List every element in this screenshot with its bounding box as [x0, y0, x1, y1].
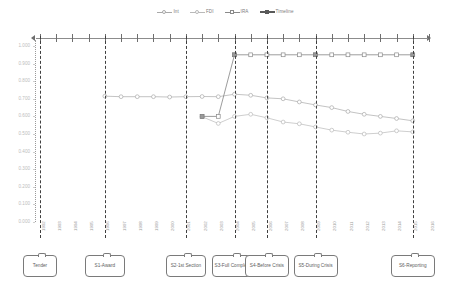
stage-separator-2004	[235, 36, 236, 238]
stage-callout-3[interactable]: S2-1st Section	[166, 255, 206, 277]
plot-area	[36, 38, 428, 222]
stage-callout-label: S2-1st Section	[171, 263, 202, 269]
timeline-tick	[332, 34, 333, 42]
x-axis-tick-label: 2007	[285, 221, 289, 231]
legend-marker-circle-icon	[190, 9, 205, 16]
callout-pointer-icon	[233, 253, 241, 257]
y-axis-tick-label: 0.600	[4, 112, 30, 120]
legend-marker-square-icon	[225, 9, 240, 16]
x-axis-tick-label: 2002	[204, 221, 208, 231]
timeline-tick	[251, 34, 252, 42]
timeline-tick	[137, 34, 138, 42]
x-axis-tick-label: 2005	[252, 221, 256, 231]
x-axis-tick-label: 2016	[431, 221, 435, 231]
stage-callout-1[interactable]: Tender	[23, 255, 57, 277]
x-axis-tick-label: 2015	[414, 221, 418, 231]
timeline-tick	[170, 34, 171, 42]
stage-callout-label: S4-Before Crisis	[250, 263, 284, 269]
chart-figure: IntFDIIRATimeline 1.0000.9000.8000.7000.…	[0, 0, 451, 285]
x-axis-tick-label: 2012	[366, 221, 370, 231]
callout-pointer-icon	[103, 253, 111, 257]
y-axis-tick-label: 0.300	[4, 165, 30, 173]
stage-callout-label: S5-During Crisis	[298, 263, 332, 269]
timeline-tick	[202, 34, 203, 42]
timeline-tick	[56, 34, 57, 42]
x-axis-tick-label: 2009	[317, 221, 321, 231]
stage-callout-label: S1-Award	[95, 263, 116, 269]
x-axis-tick-label: 2001	[187, 221, 191, 231]
y-axis-tick-label: 0.400	[4, 148, 30, 156]
legend-marker-circle-icon	[157, 9, 172, 16]
stage-callout-2[interactable]: S1-Award	[85, 255, 125, 277]
stage-callout-label: S6-Reporting	[399, 263, 427, 269]
x-axis-tick-label: 2010	[333, 221, 337, 231]
x-axis-tick-label: 2013	[382, 221, 386, 231]
y-axis-tick-label: 0.900	[4, 60, 30, 68]
x-axis-tick-label: 2008	[301, 221, 305, 231]
callout-pointer-icon	[265, 253, 273, 257]
x-axis-tick-label: 1998	[139, 221, 143, 231]
x-axis-tick-label: 1999	[155, 221, 159, 231]
stage-callout-label: Tender	[33, 263, 47, 269]
timeline-tick	[299, 34, 300, 42]
timeline-tick	[429, 34, 430, 42]
legend-item-ira[interactable]: IRA	[225, 9, 249, 16]
y-axis-tick-label: 0.500	[4, 130, 30, 138]
x-axis-tick-label: 1997	[123, 221, 127, 231]
timeline-tick	[380, 34, 381, 42]
timeline-tick	[218, 34, 219, 42]
x-axis-tick-label: 2004	[236, 221, 240, 231]
x-axis-tick-label: 1994	[74, 221, 78, 231]
stage-separator-2001	[186, 36, 187, 238]
stage-callout-7[interactable]: S6-Reporting	[391, 255, 435, 277]
timeline-tick	[89, 34, 90, 42]
stage-callout-6[interactable]: S5-During Crisis	[294, 255, 338, 277]
callout-pointer-icon	[184, 253, 192, 257]
legend-label: Int	[173, 10, 178, 15]
stage-separator-2015	[413, 36, 414, 238]
x-axis-tick-label: 2014	[398, 221, 402, 231]
y-axis-tick-mark	[33, 222, 35, 223]
legend-item-int[interactable]: Int	[157, 9, 178, 16]
x-axis-tick-label: 1993	[58, 221, 62, 231]
legend-marker-timeline-icon	[260, 9, 275, 16]
x-axis-tick-label: 2006	[269, 221, 273, 231]
legend-label: Timeline	[276, 10, 294, 15]
stage-separator-2009	[316, 36, 317, 238]
timeline-tick	[121, 34, 122, 42]
stage-separator-2006	[267, 36, 268, 238]
callout-pointer-icon	[314, 253, 322, 257]
y-axis-tick-label: 0.000	[4, 218, 30, 226]
legend-label: FDI	[206, 10, 214, 15]
legend-label: IRA	[241, 10, 249, 15]
stage-separator-1992	[40, 36, 41, 238]
stage-separator-1996	[105, 36, 106, 238]
timeline-tick	[283, 34, 284, 42]
timeline-tick	[72, 34, 73, 42]
plot-top-border	[36, 38, 428, 39]
x-axis-tick-label: 1996	[106, 221, 110, 231]
y-axis-tick-label: 1.000	[4, 42, 30, 50]
timeline-tick	[364, 34, 365, 42]
x-axis-tick-label: 1995	[90, 221, 94, 231]
y-axis-tick-label: 0.700	[4, 95, 30, 103]
legend-item-timeline[interactable]: Timeline	[260, 9, 294, 16]
x-axis-tick-label: 2011	[350, 222, 354, 231]
x-axis-tick-label: 1992	[42, 221, 46, 231]
chart-legend: IntFDIIRATimeline	[0, 6, 451, 18]
y-axis-spine	[35, 40, 36, 222]
y-axis-tick-label: 0.800	[4, 77, 30, 85]
x-axis-tick-label: 2000	[171, 221, 175, 231]
x-axis-tick-label: 2003	[220, 221, 224, 231]
callout-pointer-icon	[411, 253, 419, 257]
timeline-tick	[348, 34, 349, 42]
stage-callout-5[interactable]: S4-Before Crisis	[245, 255, 289, 277]
timeline-tick	[153, 34, 154, 42]
callout-pointer-icon	[38, 253, 46, 257]
timeline-tick	[397, 34, 398, 42]
y-axis-tick-label: 0.100	[4, 200, 30, 208]
legend-item-fdi[interactable]: FDI	[190, 9, 214, 16]
y-axis-tick-label: 0.200	[4, 183, 30, 191]
